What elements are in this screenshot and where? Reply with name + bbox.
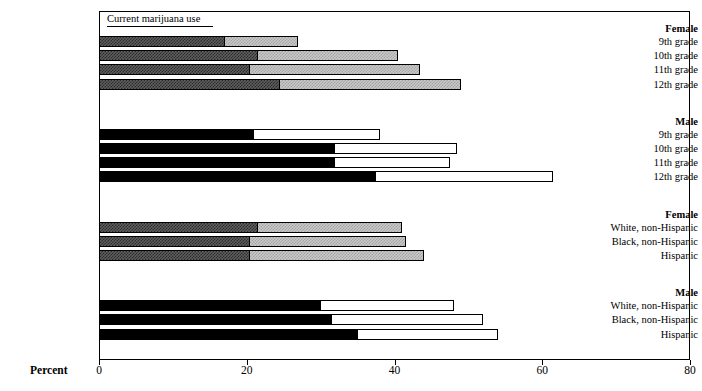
x-tick-label-60: 60 <box>537 364 549 376</box>
group-heading-female-grade: Female <box>606 23 702 34</box>
bar-row <box>99 143 690 154</box>
group-heading-male-race: Male <box>606 287 702 298</box>
bar-segment-inner <box>99 329 358 340</box>
bar-row <box>99 64 690 75</box>
bar-row <box>99 36 690 47</box>
bar-segment-inner <box>99 314 332 325</box>
bar-segment-inner <box>99 222 258 233</box>
bar-row <box>99 329 690 340</box>
bar-row <box>99 222 690 233</box>
bar-segment-inner <box>99 300 321 311</box>
x-tick-label-80: 80 <box>684 364 696 376</box>
x-tick-label-20: 20 <box>241 364 253 376</box>
bar-segment-inner <box>99 236 250 247</box>
bar-segment-inner <box>99 157 335 168</box>
chart-root: Current marijuana use Female9th grade10t… <box>0 0 702 391</box>
bar-segment-inner <box>99 143 335 154</box>
bar-segment-inner <box>99 129 254 140</box>
bar-segment-inner <box>99 250 250 261</box>
bar-row <box>99 250 690 261</box>
bar-segment-inner <box>99 171 376 182</box>
bar-segment-inner <box>99 50 258 61</box>
bar-row <box>99 171 690 182</box>
x-axis-label: Percent <box>30 364 67 376</box>
bar-row <box>99 50 690 61</box>
bar-row <box>99 157 690 168</box>
bar-segment-inner <box>99 36 225 47</box>
x-tick-label-40: 40 <box>389 364 401 376</box>
bar-row <box>99 129 690 140</box>
legend-underline <box>107 26 213 27</box>
bar-segment-inner <box>99 79 280 90</box>
x-tick-label-0: 0 <box>96 364 102 376</box>
x-axis-ticks <box>0 360 702 369</box>
group-heading-male-grade: Male <box>606 116 702 127</box>
bar-row <box>99 236 690 247</box>
group-heading-female-race: Female <box>606 209 702 220</box>
bar-row <box>99 314 690 325</box>
chart-legend: Current marijuana use <box>107 13 219 27</box>
bar-segment-inner <box>99 64 250 75</box>
bar-row <box>99 300 690 311</box>
bar-row <box>99 79 690 90</box>
legend-label: Current marijuana use <box>107 13 219 25</box>
